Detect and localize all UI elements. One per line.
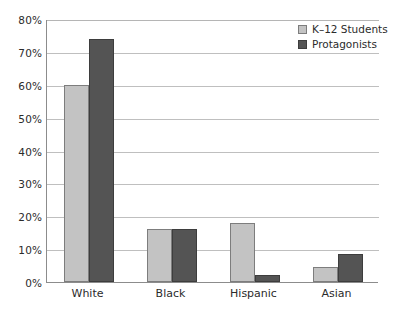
bar-chart: 80%70%60%50%40%30%20%10%0% WhiteBlackHis… [0,0,400,316]
y-axis-tick-70: 70% [0,48,42,59]
bar-black-protagonists[interactable] [172,229,197,282]
x-axis-label-hispanic: Hispanic [212,288,295,300]
y-axis-tick-60: 60% [0,81,42,92]
bar-group-hispanic [213,20,296,282]
bar-white-protagonists[interactable] [89,39,114,282]
y-axis-tick-50: 50% [0,114,42,125]
bars-layer [47,20,378,282]
y-axis-tick-10: 10% [0,245,42,256]
legend-label-k12: K–12 Students [312,23,388,35]
legend: K–12 Students Protagonists [298,23,388,50]
bar-black-k12-students[interactable] [147,229,172,282]
x-axis-label-asian: Asian [295,288,378,300]
bar-group-black [130,20,213,282]
y-axis-tick-30: 30% [0,179,42,190]
dark-swatch-icon [298,40,307,49]
bar-group-white [47,20,130,282]
x-axis-label-white: White [46,288,129,300]
bar-hispanic-k12-students[interactable] [230,223,255,282]
y-axis-tick-80: 80% [0,15,42,26]
legend-label-protagonists: Protagonists [312,38,377,50]
bar-white-k12-students[interactable] [64,85,89,282]
legend-item-k12[interactable]: K–12 Students [298,23,388,35]
y-axis-tick-40: 40% [0,147,42,158]
bar-asian-protagonists[interactable] [338,254,363,282]
bar-hispanic-protagonists[interactable] [255,275,280,282]
light-swatch-icon [298,25,307,34]
bar-asian-k12-students[interactable] [313,267,338,282]
bar-group-asian [296,20,379,282]
legend-item-protagonists[interactable]: Protagonists [298,38,388,50]
y-axis-tick-0: 0% [0,278,42,289]
y-axis-tick-20: 20% [0,212,42,223]
x-axis-label-black: Black [129,288,212,300]
plot-area [46,20,378,283]
